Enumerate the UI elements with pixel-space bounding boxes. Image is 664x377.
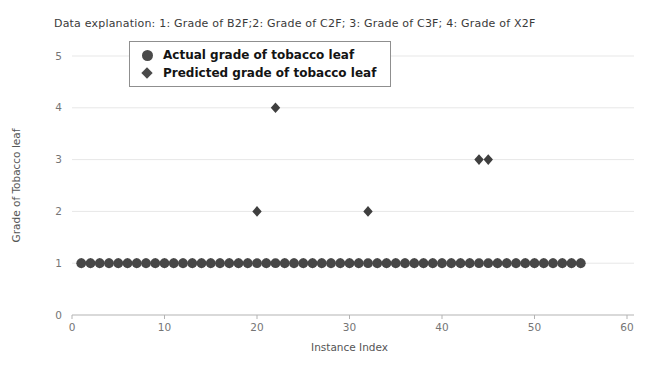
data-point-predicted [271,103,280,114]
data-point-actual [150,258,160,268]
data-point-actual [224,258,234,268]
data-point-actual [132,258,142,268]
data-point-actual [298,258,308,268]
data-point-actual [123,258,133,268]
data-point-actual [141,258,151,268]
data-point-actual [530,258,540,268]
x-tick-label-20: 20 [250,321,263,333]
y-tick-label-4: 4 [55,101,62,113]
data-point-actual [317,258,327,268]
data-point-actual [252,258,262,268]
data-point-actual [160,258,170,268]
data-point-predicted [252,206,261,217]
legend-label-predicted: Predicted grade of tobacco leaf [163,66,376,80]
data-point-predicted [474,154,483,165]
data-point-actual [86,258,96,268]
data-point-actual [215,258,225,268]
data-point-actual [76,258,86,268]
data-point-predicted [363,206,372,217]
y-tick-label-5: 5 [55,50,62,62]
data-point-actual [567,258,577,268]
data-point-actual [382,258,392,268]
data-point-actual [169,258,179,268]
data-point-actual [335,258,345,268]
data-point-actual [261,258,271,268]
data-point-actual [465,258,475,268]
data-point-actual [308,258,318,268]
y-axis-label: Grade of Tobacco leaf [10,128,22,242]
data-point-actual [548,258,558,268]
figure: 0102030405060012345Instance IndexGrade o… [0,0,664,377]
data-point-actual [400,258,410,268]
data-point-actual [206,258,216,268]
x-tick-label-30: 30 [343,321,356,333]
data-point-actual [113,258,123,268]
data-point-actual [187,258,197,268]
data-point-actual [197,258,207,268]
x-axis-label: Instance Index [311,341,388,353]
data-point-actual [326,258,336,268]
data-point-predicted [484,154,493,165]
data-point-actual [428,258,438,268]
data-point-actual [456,258,466,268]
x-tick-label-60: 60 [620,321,633,333]
data-explanation-text: Data explanation: 1: Grade of B2F;2: Gra… [54,17,535,30]
data-point-actual [234,258,244,268]
x-tick-label-10: 10 [158,321,171,333]
data-point-actual [354,258,364,268]
data-point-actual [474,258,484,268]
data-point-actual [511,258,521,268]
data-point-actual [520,258,530,268]
x-tick-label-0: 0 [69,321,76,333]
data-point-actual [483,258,493,268]
data-point-actual [539,258,549,268]
data-point-actual [419,258,429,268]
legend-item-predicted: Predicted grade of tobacco leaf [140,66,376,80]
data-point-actual [391,258,401,268]
y-tick-label-0: 0 [55,309,62,321]
data-point-actual [345,258,355,268]
data-point-actual [178,258,188,268]
data-point-actual [372,258,382,268]
data-point-actual [363,258,373,268]
circle-marker-icon [142,50,153,61]
legend-label-actual: Actual grade of tobacco leaf [163,48,354,62]
data-point-actual [576,258,586,268]
data-point-actual [289,258,299,268]
data-point-actual [409,258,419,268]
data-point-actual [104,258,114,268]
data-point-actual [437,258,447,268]
legend-marker-box [140,50,154,61]
x-tick-label-50: 50 [528,321,541,333]
data-point-actual [502,258,512,268]
legend-item-actual: Actual grade of tobacco leaf [140,48,376,62]
data-point-actual [446,258,456,268]
y-tick-label-3: 3 [55,153,62,165]
data-point-actual [493,258,503,268]
diamond-marker-icon [141,67,152,78]
data-point-actual [271,258,281,268]
y-tick-label-1: 1 [55,257,62,269]
data-point-actual [280,258,290,268]
legend-marker-box [140,69,154,77]
x-tick-label-40: 40 [435,321,448,333]
legend: Actual grade of tobacco leaf Predicted g… [129,41,391,87]
data-point-actual [557,258,567,268]
data-point-actual [95,258,105,268]
y-tick-label-2: 2 [55,205,62,217]
data-point-actual [243,258,253,268]
